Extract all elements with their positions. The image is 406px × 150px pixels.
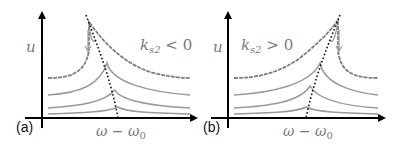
panel-label: (b) (203, 119, 220, 135)
x-axis-label: ω − ω0 (96, 123, 146, 141)
y-axis-label: u (26, 38, 36, 56)
panel-label: (a) (16, 119, 33, 135)
y-axis-label: u (213, 38, 223, 56)
condition-annotation: ks2 < 0 (140, 36, 192, 55)
response-curve-1 (48, 107, 190, 114)
x-axis-label: ω − ω0 (283, 123, 333, 141)
figure: u ω − ω0 ks2 < 0 (a) u ω − ω0 ks2 > 0 (b… (0, 0, 406, 150)
backbone-curve (306, 15, 340, 118)
response-curve-3 (48, 63, 190, 95)
response-curve-1 (234, 107, 378, 114)
jump-down-arrow-icon (336, 30, 342, 51)
panel-a: u ω − ω0 ks2 < 0 (a) (16, 13, 196, 141)
response-curve-2 (234, 86, 378, 108)
condition-annotation: ks2 > 0 (241, 36, 293, 55)
panel-b: u ω − ω0 ks2 > 0 (b) (203, 13, 384, 141)
